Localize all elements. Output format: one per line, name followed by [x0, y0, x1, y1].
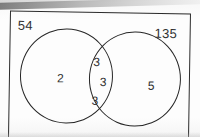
scanned-venn-diagram-image: 54 135 2 3 3 3 5: [0, 0, 200, 137]
universe-label-left: 54: [18, 19, 33, 32]
scan-bottom-vignette: [0, 132, 200, 137]
region-label-right-only: 5: [148, 80, 155, 92]
region-label-left-only: 2: [57, 72, 64, 84]
region-label-intersection-bottom: 3: [91, 95, 98, 107]
region-label-intersection-top: 3: [93, 56, 100, 68]
venn-diagram: 54 135 2 3 3 3 5: [0, 0, 200, 137]
universe-label-right: 135: [155, 27, 177, 40]
region-label-intersection-middle: 3: [100, 76, 107, 88]
